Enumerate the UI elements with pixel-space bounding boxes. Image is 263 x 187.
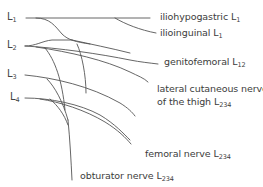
- l4-trunk: [25, 98, 130, 140]
- root-label-l3: L3: [7, 68, 17, 79]
- label-iliohypogastric: iliohypogastric L1: [160, 11, 240, 22]
- lateral-cutaneous-line: [36, 47, 148, 82]
- label-femoral: femoral nerve L234: [145, 148, 231, 159]
- root-label-l2: L2: [7, 39, 17, 50]
- label-lateral-cutaneous-line2: of the thigh L234: [157, 96, 231, 107]
- label-lateral-cutaneous: lateral cutaneous nerve: [157, 83, 263, 94]
- obturator-line: [68, 120, 72, 180]
- genitofemoral-line: [72, 40, 130, 53]
- root-label-l4: L4: [10, 91, 20, 102]
- ilioinguinal-line-end: [115, 18, 156, 33]
- label-genitofemoral: genitofemoral L12: [164, 56, 246, 67]
- l4-femoral-2: [40, 99, 131, 144]
- label-obturator: obturator nerve L234: [80, 170, 174, 181]
- lumbar-plexus-diagram: L1 L2 L3 L4 iliohypogastric L1 ilioingui…: [0, 0, 263, 187]
- l2-upper-branch: [25, 40, 72, 46]
- root-label-l1: L1: [7, 11, 17, 22]
- label-ilioinguinal: ilioinguinal L1: [160, 27, 223, 38]
